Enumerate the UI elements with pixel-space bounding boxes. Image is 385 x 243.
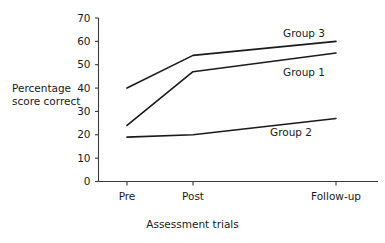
y-axis-title-line1: Percentage (12, 82, 86, 95)
series-label-group-3: Group 3 (283, 27, 325, 39)
series-label-group-1: Group 1 (283, 66, 325, 78)
y-axis-tick-label: 0 (69, 175, 91, 187)
series-label-group-2: Group 2 (270, 126, 312, 138)
y-axis-tick-label: 70 (69, 12, 91, 24)
line-chart: 010203040506070 PrePostFollow-up Percent… (0, 0, 385, 243)
series-line-group-1 (127, 53, 336, 125)
y-axis-title: Percentage score correct (12, 82, 86, 108)
y-axis-tick-label: 10 (69, 152, 91, 164)
data-series-lines (127, 41, 336, 137)
y-axis-tick-label: 60 (69, 35, 91, 47)
x-axis-tick-label: Follow-up (296, 190, 376, 202)
x-axis-ticks (127, 182, 336, 186)
x-axis-title: Assessment trials (0, 218, 385, 230)
x-axis-tick-label: Post (153, 190, 233, 202)
y-axis-tick-label: 20 (69, 128, 91, 140)
series-line-group-3 (127, 41, 336, 88)
axis-lines (98, 18, 378, 182)
y-axis-tick-label: 50 (69, 58, 91, 70)
y-axis-title-line2: score correct (12, 95, 86, 108)
chart-plot-area (0, 0, 385, 243)
